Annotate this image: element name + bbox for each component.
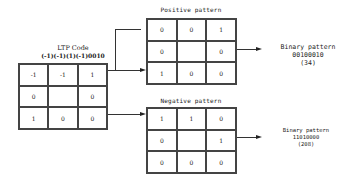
negative-cell: 1 xyxy=(147,108,177,130)
ltp-cell-center xyxy=(48,86,77,108)
ltp-cell: 0 xyxy=(48,107,77,129)
ltp-cell: -1 xyxy=(19,64,48,86)
connector-line xyxy=(115,29,116,71)
ltp-cell: 1 xyxy=(78,64,107,86)
positive-binary: 00100010 xyxy=(268,51,348,59)
negative-cell: 0 xyxy=(206,108,236,130)
ltp-code: (-1)(-1)(1)(-1)0010 xyxy=(28,52,118,59)
ltp-cell: 1 xyxy=(19,107,48,129)
positive-cell: 1 xyxy=(147,62,177,84)
connector-line xyxy=(115,29,141,30)
positive-decimal: (34) xyxy=(268,59,348,67)
arrow-right-icon xyxy=(256,47,262,51)
negative-grid: 1 1 0 0 1 0 0 0 xyxy=(146,107,237,174)
connector-line xyxy=(115,70,140,71)
positive-grid: 0 0 1 0 0 1 0 0 xyxy=(146,18,237,85)
output-line xyxy=(237,49,258,50)
ltp-cell: 0 xyxy=(78,86,107,108)
ltp-title: LTP Code xyxy=(28,44,118,52)
negative-output-label: Binary pattern xyxy=(266,127,346,134)
arrow-right-icon xyxy=(256,135,262,139)
ltp-grid: -1 -1 1 0 0 1 0 0 xyxy=(18,63,108,130)
negative-output: Binary pattern 11010000 (208) xyxy=(266,127,346,148)
connector-line xyxy=(108,70,115,71)
positive-cell: 0 xyxy=(147,19,177,41)
ltp-cell: -1 xyxy=(48,64,77,86)
negative-binary: 11010000 xyxy=(266,134,346,141)
output-line xyxy=(237,137,258,138)
positive-cell: 0 xyxy=(206,41,236,63)
negative-cell: 1 xyxy=(177,108,207,130)
negative-cell: 0 xyxy=(206,151,236,173)
positive-output: Binary pattern 00100010 (34) xyxy=(268,43,348,67)
negative-cell: 0 xyxy=(177,151,207,173)
negative-cell: 0 xyxy=(147,151,177,173)
ltp-cell: 0 xyxy=(78,107,107,129)
positive-cell-center xyxy=(177,41,207,63)
negative-title: Negative pattern xyxy=(146,97,236,104)
positive-output-label: Binary pattern xyxy=(268,43,348,51)
positive-cell: 0 xyxy=(206,62,236,84)
ltp-cell: 0 xyxy=(19,86,48,108)
positive-title: Positive pattern xyxy=(146,6,236,13)
negative-cell: 0 xyxy=(147,130,177,152)
negative-cell-center xyxy=(177,130,207,152)
negative-decimal: (208) xyxy=(266,141,346,148)
connector-line xyxy=(108,114,140,115)
positive-cell: 1 xyxy=(206,19,236,41)
positive-cell: 0 xyxy=(147,41,177,63)
negative-cell: 1 xyxy=(206,130,236,152)
positive-cell: 0 xyxy=(177,62,207,84)
positive-cell: 0 xyxy=(177,19,207,41)
